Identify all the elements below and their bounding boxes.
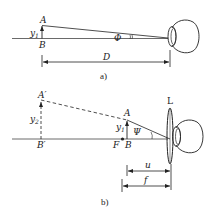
label-phi: Φ <box>114 33 121 43</box>
caption-a: a) <box>100 71 107 81</box>
label-y1: y1 <box>115 122 125 133</box>
label-B: B <box>38 40 46 50</box>
optics-diagram: A B y1 Φ D a) <box>0 0 220 218</box>
virtual-ray <box>41 100 127 120</box>
ray-a <box>42 26 168 39</box>
label-A: A <box>123 108 131 118</box>
angle-arc-a-2 <box>132 35 133 39</box>
label-L: L <box>167 96 173 106</box>
label-y2: y2 <box>29 114 39 125</box>
eye-icon-b <box>173 120 204 153</box>
focal-point-dot <box>121 137 124 140</box>
diagram-a: A B y1 Φ D a) <box>12 15 199 81</box>
label-A: A <box>39 15 47 25</box>
caption-b: b) <box>101 197 109 207</box>
label-B-prime: B′ <box>36 140 46 150</box>
label-f: f <box>143 175 149 185</box>
diagram-b: A′ B′ y2 A B y1 F Ψ L u f b) <box>12 90 203 207</box>
label-B: B <box>124 140 132 150</box>
label-u: u <box>145 160 151 170</box>
label-psi: Ψ <box>133 127 142 137</box>
label-y1: y1 <box>29 28 39 39</box>
angle-arc-a <box>130 35 131 39</box>
label-A-prime: A′ <box>37 90 47 100</box>
angle-arc-b <box>151 132 152 139</box>
eye-icon <box>168 20 199 53</box>
label-F: F <box>112 140 120 150</box>
label-D: D <box>102 52 110 62</box>
